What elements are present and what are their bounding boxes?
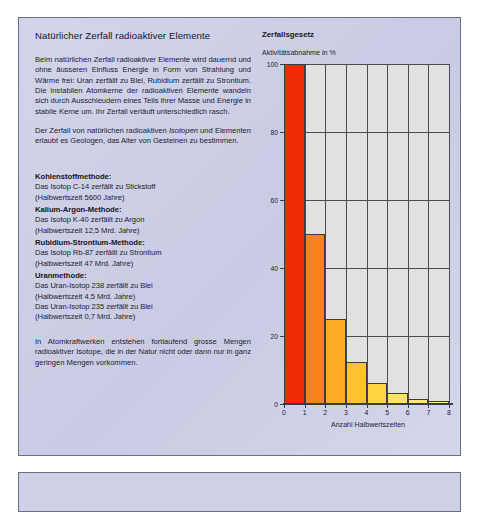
x-axis-tick: [408, 404, 409, 408]
chart-plot-wrapper: 020406080100012345678 Anzahl Halbwertsze…: [262, 64, 452, 436]
x-gridline: [346, 64, 347, 404]
chart-bar: [428, 401, 449, 404]
method-line: (Halbwertszeit 12,5 Mrd. Jahre): [35, 226, 251, 236]
method-heading: Kohlenstoffmethode:: [35, 172, 251, 182]
method-line: (Halbwertszeit 0,7 Mrd. Jahre): [35, 312, 251, 322]
x-axis-tick: [305, 404, 306, 408]
method-rubidium-strontium: Rubidium-Strontium-Methode: Das Isotop R…: [35, 238, 251, 269]
x-axis-tick: [428, 404, 429, 408]
chart-x-axis-title: Anzahl Halbwertszeiten: [284, 421, 452, 429]
x-gridline: [387, 64, 388, 404]
chart-bar: [367, 383, 388, 404]
chart-bar: [284, 64, 305, 404]
x-gridline: [449, 64, 450, 404]
x-axis-tick-label: 2: [323, 409, 327, 416]
x-axis-tick: [325, 404, 326, 408]
chart-bar: [325, 319, 346, 404]
method-uran: Uranmethode: Das Uran-Isotop 238 zerfäll…: [35, 271, 251, 323]
x-axis-tick: [346, 404, 347, 408]
method-heading: Kalium-Argon-Methode:: [35, 205, 251, 215]
x-axis-tick-label: 5: [385, 409, 389, 416]
method-line: (Halbwertszeit 4,5 Mrd. Jahre): [35, 292, 251, 302]
y-axis-tick-label: 60: [270, 197, 278, 204]
method-line: (Halbwertszeit 47 Mrd. Jahre): [35, 259, 251, 269]
chart-title: Zerfallsgesetz: [262, 30, 452, 40]
method-line: Das Isotop Rb-87 zerfällt zu Strontium: [35, 248, 251, 258]
chart-column: Zerfallsgesetz Aktivitätsabnahme in % 02…: [262, 30, 452, 436]
page-title: Natürlicher Zerfall radioaktiver Element…: [35, 30, 251, 42]
text-column: Natürlicher Zerfall radioaktiver Element…: [35, 30, 251, 377]
intro-paragraph-2: Der Zerfall von natürlichen radioaktiven…: [35, 126, 251, 147]
chart-bar: [305, 234, 326, 404]
chart-plot-area: 020406080100012345678: [284, 64, 449, 404]
x-axis-tick: [449, 404, 450, 408]
x-axis-tick-label: 6: [406, 409, 410, 416]
x-axis-tick-label: 8: [447, 409, 451, 416]
method-kohlenstoff: Kohlenstoffmethode: Das Isotop C-14 zerf…: [35, 172, 251, 203]
y-axis-tick-label: 80: [270, 129, 278, 136]
y-axis-tick-label: 100: [267, 61, 278, 68]
secondary-panel: [18, 472, 461, 512]
chart-bar: [346, 362, 367, 405]
x-axis-tick-label: 4: [365, 409, 369, 416]
x-axis-tick: [284, 404, 285, 408]
x-axis-tick-label: 7: [426, 409, 430, 416]
method-line: (Halbwertszeit 5600 Jahre): [35, 193, 251, 203]
method-line: Das Uran-Isotop 238 zerfällt zu Blei: [35, 281, 251, 291]
closing-spacer: [35, 323, 251, 337]
x-gridline: [367, 64, 368, 404]
x-gridline: [428, 64, 429, 404]
method-kalium-argon: Kalium-Argon-Methode: Das Isotop K-40 ze…: [35, 205, 251, 236]
method-line: Das Isotop C-14 zerfällt zu Stickstoff: [35, 182, 251, 192]
x-axis-tick: [367, 404, 368, 408]
intro-paragraph-2-pre: Der Zerfall von natürlichen radioaktiven: [35, 126, 169, 135]
info-panel: Natürlicher Zerfall radioaktiver Element…: [18, 17, 461, 456]
x-axis-tick-label: 0: [282, 409, 286, 416]
method-heading: Uranmethode:: [35, 271, 251, 281]
y-axis-tick-label: 40: [270, 265, 278, 272]
x-gridline: [408, 64, 409, 404]
x-axis-tick: [387, 404, 388, 408]
method-heading: Rubidium-Strontium-Methode:: [35, 238, 251, 248]
y-axis-tick-label: 20: [270, 333, 278, 340]
x-axis-tick-label: 1: [303, 409, 307, 416]
y-axis-tick-label: 0: [274, 401, 278, 408]
method-line: Das Isotop K-40 zerfällt zu Argon: [35, 215, 251, 225]
method-line: Das Uran-Isotop 235 zerfällt zu Blei: [35, 302, 251, 312]
divider-spacer: [35, 156, 251, 170]
isotopen-italic-term: Isotopen: [169, 126, 198, 135]
chart-bar: [387, 393, 408, 404]
chart-bar: [408, 399, 429, 404]
chart-y-axis-title: Aktivitätsabnahme in %: [262, 49, 452, 58]
x-axis-tick-label: 3: [344, 409, 348, 416]
closing-paragraph: In Atomkraftwerken entstehen fortlaufend…: [35, 337, 251, 368]
intro-paragraph-1: Beim natürlichen Zerfall radioaktiver El…: [35, 55, 251, 117]
